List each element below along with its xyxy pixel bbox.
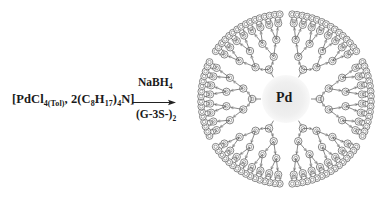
benzene-ring-icon [289, 180, 296, 187]
pd-core-label: Pd [276, 90, 292, 106]
benzene-ring-icon [359, 133, 366, 140]
benzene-ring-icon [212, 143, 219, 150]
benzene-ring-icon [276, 11, 283, 18]
dendrimer-pd-nanoparticle [0, 0, 386, 198]
benzene-ring-icon [353, 48, 360, 55]
benzene-ring-icon [206, 59, 213, 66]
